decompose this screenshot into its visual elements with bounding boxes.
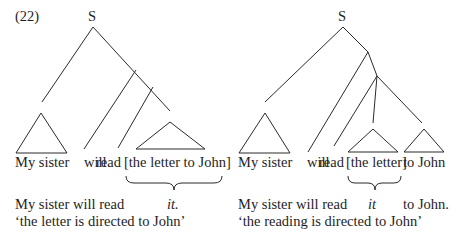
right-gloss: ‘the reading is directed to John’ [238, 214, 422, 229]
left-paraphrase-pronoun: it. [167, 197, 179, 212]
left-tree-brace [126, 176, 222, 190]
right-tree-pp-triangle [404, 129, 444, 152]
right-word-read: read [319, 155, 344, 170]
left-tree-object-triangle [136, 122, 205, 149]
left-tree-subject-triangle [16, 113, 67, 153]
right-word-object: [the letter] [346, 155, 407, 170]
right-paraphrase-suffix: to John. [403, 197, 449, 212]
right-tree-subject-triangle [239, 113, 290, 153]
right-paraphrase-prefix: My sister will read [238, 197, 347, 212]
left-tree-branches [42, 27, 170, 149]
right-tree-root-label: S [338, 9, 346, 24]
right-word-pp: to John [403, 155, 445, 170]
right-tree-brace [348, 176, 401, 190]
right-tree-branches [265, 27, 422, 152]
example-number: (22) [15, 9, 39, 24]
left-word-subject: My sister [15, 155, 69, 170]
right-word-subject: My sister [238, 155, 292, 170]
left-tree-root-label: S [88, 9, 96, 24]
left-gloss: ‘the letter is directed to John’ [15, 214, 185, 229]
left-paraphrase-prefix: My sister will read [15, 197, 124, 212]
right-tree-object-triangle [348, 129, 398, 152]
left-word-read: read [96, 155, 121, 170]
right-paraphrase-pronoun: it [368, 197, 376, 212]
left-word-object: [the letter to John] [124, 155, 231, 170]
